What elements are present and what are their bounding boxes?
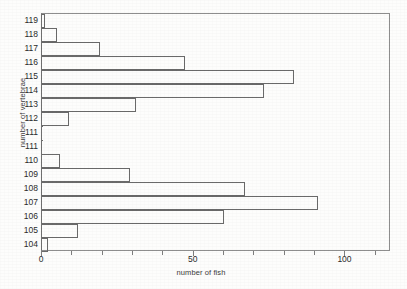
bar xyxy=(42,84,264,98)
bar-row xyxy=(42,154,389,168)
bar-row xyxy=(42,126,389,140)
chart-figure: number of vertebrae 11911811711611511411… xyxy=(0,0,407,289)
x-axis-tick xyxy=(162,251,163,255)
y-tick-label: 106 xyxy=(4,212,38,221)
bar xyxy=(42,154,60,168)
y-tick-label: 104 xyxy=(4,240,38,249)
bar-row xyxy=(42,238,389,252)
bar xyxy=(42,238,48,252)
bar xyxy=(42,28,57,42)
bar xyxy=(42,140,43,154)
x-axis-tick xyxy=(102,251,103,255)
y-tick-label: 119 xyxy=(4,16,38,25)
y-tick-label: 105 xyxy=(4,226,38,235)
y-tick-label: 111 xyxy=(4,142,38,151)
x-axis-title: number of fish xyxy=(41,268,361,277)
bar-row xyxy=(42,168,389,182)
bar xyxy=(42,126,43,140)
bar-row xyxy=(42,56,389,70)
bar-row xyxy=(42,98,389,112)
y-tick-label: 108 xyxy=(4,184,38,193)
bar xyxy=(42,168,130,182)
y-tick-label: 118 xyxy=(4,30,38,39)
y-tick-label: 111 xyxy=(4,128,38,137)
bar xyxy=(42,56,185,70)
bar-row xyxy=(42,42,389,56)
x-axis-tick xyxy=(375,251,376,255)
bar xyxy=(42,14,45,28)
bar-row xyxy=(42,14,389,28)
bar-row xyxy=(42,210,389,224)
x-axis-tick xyxy=(314,251,315,255)
bar-row xyxy=(42,224,389,238)
bar-row xyxy=(42,140,389,154)
bar xyxy=(42,196,318,210)
x-tick-label: 0 xyxy=(39,254,44,264)
y-tick-label: 115 xyxy=(4,72,38,81)
plot-area xyxy=(41,13,390,251)
bar-row xyxy=(42,112,389,126)
bar xyxy=(42,182,245,196)
bar xyxy=(42,98,136,112)
x-axis-tick xyxy=(71,251,72,255)
bar-row xyxy=(42,196,389,210)
y-tick-label: 116 xyxy=(4,58,38,67)
bar-series xyxy=(42,14,389,250)
x-axis-tick xyxy=(253,251,254,255)
y-tick-label: 109 xyxy=(4,170,38,179)
bar xyxy=(42,112,69,126)
y-tick-label: 117 xyxy=(4,44,38,53)
y-tick-label: 114 xyxy=(4,86,38,95)
bar xyxy=(42,70,294,84)
bar xyxy=(42,210,224,224)
bar-row xyxy=(42,84,389,98)
x-tick-label: 50 xyxy=(188,254,197,264)
bar-row xyxy=(42,182,389,196)
bar-row xyxy=(42,28,389,42)
x-axis-tick xyxy=(284,251,285,255)
y-axis-tick-labels: 1191181171161151141131121111111101091081… xyxy=(0,13,38,251)
x-axis-tick xyxy=(132,251,133,255)
y-tick-label: 112 xyxy=(4,114,38,123)
y-tick-label: 107 xyxy=(4,198,38,207)
bar xyxy=(42,224,78,238)
y-tick-label: 110 xyxy=(4,156,38,165)
x-tick-label: 100 xyxy=(337,254,351,264)
bar xyxy=(42,42,100,56)
bar-row xyxy=(42,70,389,84)
y-tick-label: 113 xyxy=(4,100,38,109)
x-axis-tick xyxy=(223,251,224,255)
